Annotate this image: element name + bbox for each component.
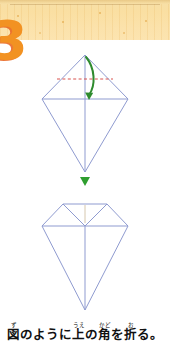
caption-seg-2: 上うえ — [72, 327, 85, 342]
folded-left-diagonal — [63, 204, 85, 226]
caption-seg-1: のように — [20, 327, 72, 342]
banner-hairline — [10, 4, 160, 5]
folded-right-diagonal — [85, 204, 107, 226]
caption-seg-6: 折お — [124, 327, 137, 342]
caption-seg-7: る。 — [137, 327, 163, 342]
caption-seg-5: を — [111, 327, 124, 342]
caption-seg-3: の — [85, 327, 98, 342]
caption-seg-4: 角かど — [98, 327, 111, 342]
diagram-kite-after-fold — [0, 190, 170, 315]
caption: 図ずのように上うえの角かどを折おる。 — [0, 322, 170, 342]
caption-line: 図ずのように上うえの角かどを折おる。 — [0, 322, 170, 342]
step-number: 3 — [0, 14, 26, 68]
origami-step-page: 3 — [0, 0, 170, 345]
caption-seg-0: 図ず — [7, 327, 20, 342]
down-triangle-arrow — [0, 176, 170, 188]
